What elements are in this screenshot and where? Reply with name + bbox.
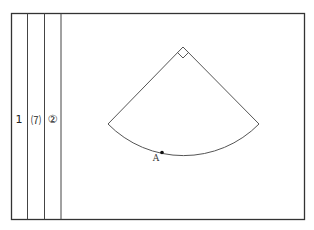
point-a-label: A	[153, 153, 160, 163]
strip-label-2: ②	[48, 113, 58, 126]
strip-label-1: 1	[16, 113, 23, 126]
strip-label-7: ⑺	[31, 112, 41, 127]
right-angle-marker	[178, 53, 189, 59]
sector-shape	[108, 47, 259, 156]
point-a-dot	[160, 151, 164, 155]
